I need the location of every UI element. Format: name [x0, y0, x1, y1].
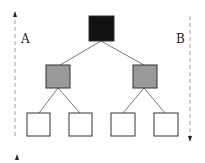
label-a: A — [21, 32, 30, 46]
leaf-node-2 — [69, 113, 92, 136]
leaf-node-1 — [27, 113, 50, 136]
label-b: B — [176, 32, 185, 46]
arrow-left-up — [13, 11, 17, 136]
leaf-node-4 — [154, 113, 178, 136]
mid-node-right — [133, 65, 157, 88]
tree-diagram — [0, 0, 205, 163]
arrow-right-down — [188, 16, 192, 142]
leaf-node-3 — [111, 113, 135, 136]
mid-node-left — [46, 65, 70, 88]
root-node — [89, 16, 114, 41]
small-arrow-icon — [15, 154, 19, 160]
